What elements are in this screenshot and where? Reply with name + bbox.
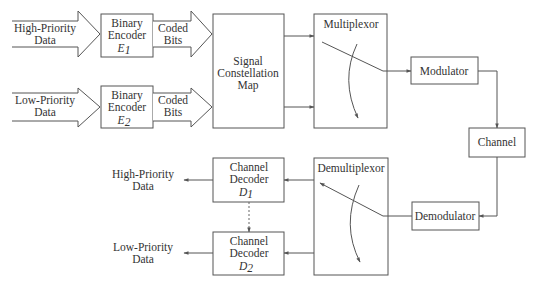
binary-encoder-e2: Binary Encoder E2 [101,86,153,128]
channel-decoder-d2: Channel Decoder D2 [213,232,284,275]
decoder-d2-label-1: Channel [230,235,268,247]
high-priority-output-label-2: Data [132,180,154,192]
multiplexor-label: Multiplexor [324,18,379,31]
hollow-arrow-icon [12,11,100,57]
modulator: Modulator [411,57,478,84]
channel-label: Channel [478,136,516,148]
coded-bits-2-label-2: Bits [164,106,183,118]
channel: Channel [469,128,525,157]
coded-bits-2-label-1: Coded [158,94,188,106]
modulator-to-channel-arrow [478,71,497,128]
high-priority-input-label-2: Data [34,34,56,46]
coded-bits-1-label-2: Bits [164,34,183,46]
signal-map-label-2: Constellation [217,67,279,79]
demultiplexor: Demultiplexor [314,158,412,275]
hollow-arrow-icon [153,11,212,57]
channel-to-demodulator-arrow [479,157,497,216]
low-priority-input-arrow: Low-Priority Data [12,88,100,127]
demodulator: Demodulator [412,202,479,230]
coded-bits-arrow-1: Coded Bits [153,11,212,57]
demodulator-label: Demodulator [415,210,476,222]
encoder-e1-label-2: Encoder [108,29,146,41]
coded-bits-1-label-1: Coded [158,22,188,34]
encoder-e2-label-2: Encoder [108,101,146,113]
decoder-d2-symbol: D2 [238,260,253,274]
low-priority-input-label-2: Data [34,106,56,118]
decoder-d1-label-1: Channel [230,161,268,173]
modulator-label: Modulator [420,65,469,77]
high-priority-input-arrow: High-Priority Data [12,11,100,57]
channel-decoder-d1: Channel Decoder D1 [213,158,284,202]
decoder-d1-symbol: D1 [238,186,253,200]
unequal-error-protection-block-diagram: High-Priority Data Low-Priority Data Bin… [0,0,537,285]
binary-encoder-e1: Binary Encoder E1 [101,14,153,57]
decoder-d2-label-2: Decoder [230,247,269,259]
signal-map-label-3: Map [237,79,258,92]
coded-bits-arrow-2: Coded Bits [153,88,212,127]
decoder-d1-label-2: Decoder [230,173,269,185]
encoder-e1-symbol: E1 [117,42,131,56]
signal-constellation-map: Signal Constellation Map [213,14,284,128]
low-priority-output-label-2: Data [132,253,154,265]
multiplexor: Multiplexor [314,14,411,128]
encoder-e2-symbol: E2 [117,114,131,128]
demultiplexor-label: Demultiplexor [317,162,384,175]
